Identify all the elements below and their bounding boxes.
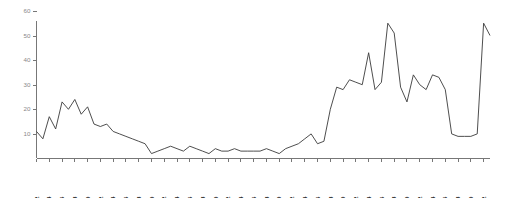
y-tick-label: 10 xyxy=(24,130,31,137)
x-tick-label: 1916 xyxy=(441,196,448,198)
x-tick-label-group: 1852185418561858186018621864186618681870… xyxy=(33,196,487,198)
x-tick-label: 1856 xyxy=(58,196,65,198)
x-tick-label: 1908 xyxy=(390,196,397,198)
x-tick-label: 1884 xyxy=(237,196,244,198)
y-tick-label: 50 xyxy=(24,32,31,39)
x-tick-label: 1894 xyxy=(301,196,308,198)
x-tick-label: 1882 xyxy=(224,196,231,198)
x-tick-label: 1870 xyxy=(148,196,155,198)
y-tick-label: 20 xyxy=(24,105,31,112)
x-tick-label: 1880 xyxy=(212,196,219,198)
y-tick-group: 102030405060 xyxy=(24,7,37,137)
x-tick-label: 1864 xyxy=(109,196,116,198)
x-tick-label: 1912 xyxy=(416,196,423,198)
x-tick-label: 1866 xyxy=(122,196,129,198)
x-tick-label: 1860 xyxy=(84,196,91,198)
x-tick-label: 1878 xyxy=(199,196,206,198)
x-tick-label: 1914 xyxy=(429,196,436,198)
x-tick-label: 1858 xyxy=(71,196,78,198)
x-tick-label: 1898 xyxy=(327,196,334,198)
x-tick-label: 1902 xyxy=(352,196,359,198)
x-tick-label: 1906 xyxy=(378,196,385,198)
y-tick-label: 30 xyxy=(24,81,31,88)
x-tick-label: 1910 xyxy=(403,196,410,198)
line-chart: 102030405060 185218541856185818601862186… xyxy=(0,0,506,198)
y-tick-label: 40 xyxy=(24,56,31,63)
x-tick-label: 1890 xyxy=(275,196,282,198)
x-tick-label: 1888 xyxy=(263,196,270,198)
y-tick-label: 60 xyxy=(24,7,31,14)
x-axis xyxy=(37,159,491,163)
x-tick-label: 1854 xyxy=(45,196,52,198)
x-tick-group xyxy=(37,159,484,163)
x-tick-label: 1886 xyxy=(250,196,257,198)
x-tick-label: 1918 xyxy=(454,196,461,198)
x-tick-label: 1892 xyxy=(288,196,295,198)
x-tick-label: 1876 xyxy=(186,196,193,198)
x-tick-label: 1872 xyxy=(160,196,167,198)
series-line xyxy=(37,23,491,153)
x-tick-label: 1896 xyxy=(314,196,321,198)
x-tick-label: 1920 xyxy=(467,196,474,198)
x-tick-label: 1868 xyxy=(135,196,142,198)
chart-canvas: 102030405060 185218541856185818601862186… xyxy=(0,0,506,198)
x-tick-label: 1922 xyxy=(480,196,487,198)
x-tick-label: 1904 xyxy=(365,196,372,198)
x-tick-label: 1874 xyxy=(173,196,180,198)
x-tick-label: 1900 xyxy=(339,196,346,198)
data-series-group xyxy=(37,23,491,153)
y-axis: 102030405060 xyxy=(24,7,37,158)
x-tick-label: 1852 xyxy=(33,196,40,198)
x-tick-label: 1862 xyxy=(97,196,104,198)
